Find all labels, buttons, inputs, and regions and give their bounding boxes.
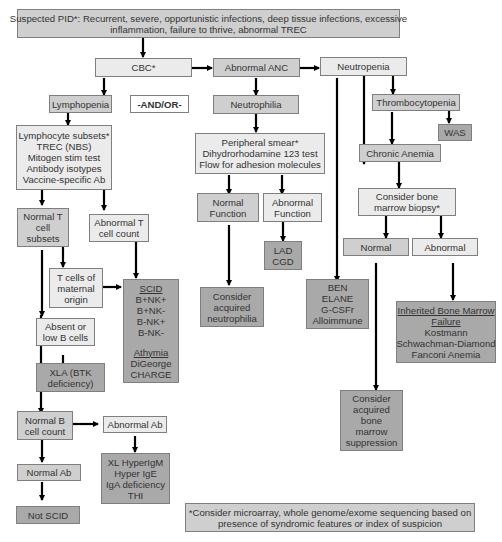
neutropenia-label: Neutropenia xyxy=(337,61,389,72)
was-box: WAS xyxy=(438,124,472,141)
scid-item: B-NK- xyxy=(138,327,164,338)
ben-item: BEN xyxy=(328,282,348,293)
footnote-line2: presence of syndromic features or index … xyxy=(218,518,442,529)
acquired-neutrophilia-box: Consider acquired neutrophilia xyxy=(200,287,264,327)
normal-function-box: Normal Function xyxy=(197,193,259,222)
neutrophil-tests-box: Peripheral smear* Dihydrorhodamine 123 t… xyxy=(195,133,325,174)
abnormal-t-line1: Abnormal T xyxy=(94,217,143,228)
ben-box: BEN ELANE G-CSFr Alloimmune xyxy=(306,279,369,329)
thrombocytopenia-label: Thrombocytopenia xyxy=(376,97,455,108)
normal-function-line1: Normal xyxy=(213,197,244,208)
ben-item: ELANE xyxy=(322,293,353,304)
absent-b-cells-box: Absent or low B cells xyxy=(36,318,95,346)
acq-neutro-line3: neutrophilia xyxy=(207,313,257,324)
cbc-box: CBC* xyxy=(95,58,192,77)
footnote-box: *Consider microarray, whole genome/exome… xyxy=(185,503,475,532)
abnormal-ab-box: Abnormal Ab xyxy=(103,416,167,433)
t-maternal-origin-box: T cells of maternal origin xyxy=(49,268,103,308)
humoral-item: Hyper IgE xyxy=(114,468,157,479)
normal-function-line2: Function xyxy=(210,208,247,219)
bmb-line2: marrow biopsy* xyxy=(374,202,440,213)
t-maternal-line1: T cells of xyxy=(57,272,95,283)
humoral-item: THI xyxy=(128,490,143,501)
humoral-item: XL HyperIgM xyxy=(108,457,164,468)
test-mitogen: Mitogen stim test xyxy=(28,152,101,163)
and-or-label: -AND/OR- xyxy=(137,99,181,110)
t-maternal-line2: maternal xyxy=(57,283,94,294)
ibmf-item: Fanconi Anemia xyxy=(412,349,481,360)
abnormal-function-line1: Abnormal xyxy=(272,197,313,208)
test-trec: TREC (NBS) xyxy=(37,141,92,152)
footnote-line1: *Consider microarray, whole genome/exome… xyxy=(189,507,471,518)
lymphopenia-label: Lymphopenia xyxy=(52,99,109,110)
test-peripheral-smear: Peripheral smear* xyxy=(222,137,299,148)
scid-item: B-NK+ xyxy=(137,316,166,327)
and-or-box: -AND/OR- xyxy=(130,95,189,113)
abnormal-ab-label: Abnormal Ab xyxy=(108,419,163,430)
t-maternal-line3: origin xyxy=(64,294,87,305)
abnormal-t-line2: cell count xyxy=(99,228,140,239)
not-scid-box: Not SCID xyxy=(16,506,80,524)
neutropenia-box: Neutropenia xyxy=(320,57,407,76)
xla-box: XLA (BTK deficiency) xyxy=(36,363,105,392)
ibmf-heading-line1: Inherited Bone Marrow xyxy=(397,305,494,316)
humoral-item: IgA deficiency xyxy=(106,479,165,490)
acq-bm-line4: marrow xyxy=(356,426,388,437)
bone-marrow-biopsy-box: Consider bone marrow biopsy* xyxy=(358,188,456,216)
acquired-bm-suppression-box: Consider acquired bone marrow suppressio… xyxy=(340,390,403,451)
inherited-bmf-box: Inherited Bone Marrow Failure Kostmann S… xyxy=(396,301,496,363)
acq-bm-line1: Consider xyxy=(352,393,390,404)
normal-t-line1: Normal T xyxy=(23,211,62,222)
ben-item: G-CSFr xyxy=(321,304,354,315)
chronic-anemia-box: Chronic Anemia xyxy=(359,144,441,162)
test-adhesion-flow: Flow for adhesion molecules xyxy=(199,159,321,170)
acq-bm-line2: acquired xyxy=(353,404,390,415)
abnormal-anc-label: Abnormal ANC xyxy=(225,62,288,73)
scid-box: SCID B+NK+ B+NK- B-NK+ B-NK- Athymia DiG… xyxy=(123,279,179,383)
neutrophilia-box: Neutrophilia xyxy=(213,95,299,114)
bm-normal-box: Normal xyxy=(343,238,409,256)
neutrophilia-label: Neutrophilia xyxy=(230,99,281,110)
abnormal-t-count-box: Abnormal T cell count xyxy=(89,214,149,242)
scid-item: B+NK- xyxy=(137,305,166,316)
lymphocyte-tests-box: Lymphocyte subsets* TREC (NBS) Mitogen s… xyxy=(16,125,112,190)
abnormal-anc-box: Abnormal ANC xyxy=(213,58,300,77)
xla-line2: deficiency) xyxy=(48,378,94,389)
acq-bm-line5: suppression xyxy=(346,437,398,448)
ben-item: Alloimmune xyxy=(312,315,362,326)
absent-b-line2: low B cells xyxy=(43,332,88,343)
bmb-line1: Consider bone xyxy=(376,191,438,202)
athymia-item: DiGeorge xyxy=(130,358,171,369)
cgd-label: CGD xyxy=(272,256,293,267)
thrombocytopenia-box: Thrombocytopenia xyxy=(372,94,460,111)
acq-neutro-line1: Consider xyxy=(213,291,251,302)
abnormal-function-box: Abnormal Function xyxy=(263,193,322,222)
ibmf-item: Schwachman-Diamond xyxy=(396,338,495,349)
humoral-defects-box: XL HyperIgM Hyper IgE IgA deficiency THI xyxy=(101,453,170,504)
normal-ab-label: Normal Ab xyxy=(27,467,72,478)
lad-label: LAD xyxy=(274,245,293,256)
test-vaccine-ab: Vaccine-specific Ab xyxy=(23,174,105,185)
bm-abnormal-label: Abnormal xyxy=(424,242,465,253)
ibmf-item: Kostmann xyxy=(424,327,467,338)
bm-normal-label: Normal xyxy=(361,242,392,253)
bm-abnormal-box: Abnormal xyxy=(412,238,478,256)
suspected-pid-box: Suspected PID*: Recurrent, severe, oppor… xyxy=(17,9,400,38)
test-dhr123: Dihydrorhodamine 123 test xyxy=(202,148,317,159)
test-lymphocyte-subsets: Lymphocyte subsets* xyxy=(19,130,110,141)
normal-b-line2: cell count xyxy=(25,426,66,437)
suspected-pid-line2: inflammation, failure to thrive, abnorma… xyxy=(110,24,307,35)
athymia-item: CHARGE xyxy=(130,369,171,380)
chronic-anemia-label: Chronic Anemia xyxy=(366,148,434,159)
was-label: WAS xyxy=(444,127,466,138)
not-scid-label: Not SCID xyxy=(28,510,69,521)
acq-neutro-line2: acquired xyxy=(214,302,251,313)
absent-b-line1: Absent or xyxy=(45,321,86,332)
xla-line1: XLA (BTK xyxy=(49,367,91,378)
normal-b-line1: Normal B xyxy=(25,415,65,426)
ibmf-heading-line2: Failure xyxy=(431,316,460,327)
acq-bm-line3: bone xyxy=(361,415,382,426)
scid-heading: SCID xyxy=(140,283,163,294)
normal-t-subsets-box: Normal T cell subsets xyxy=(17,208,69,247)
normal-ab-box: Normal Ab xyxy=(17,464,81,481)
